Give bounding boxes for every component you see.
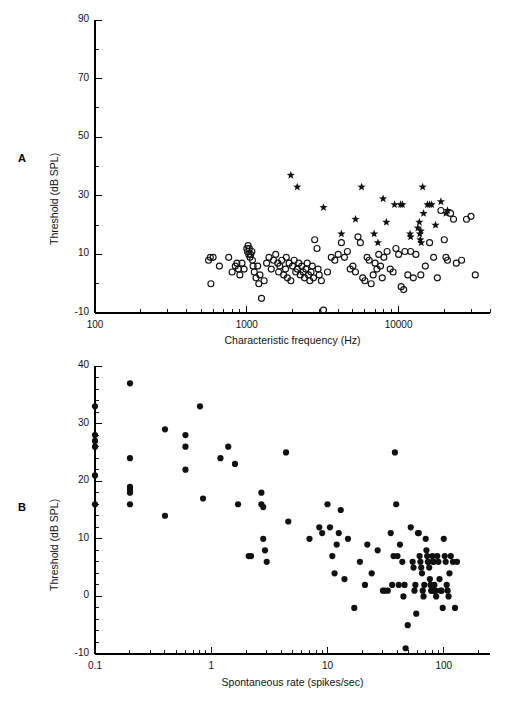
data-point-filled-circle	[420, 588, 426, 594]
y-tick-label: 10	[47, 532, 89, 543]
data-point-filled-circle	[306, 536, 312, 542]
y-tick-label: 10	[47, 247, 89, 258]
data-point-filled-circle	[392, 449, 398, 455]
data-point-filled-circle	[410, 565, 416, 571]
data-point-open-circle	[259, 295, 265, 301]
data-point-filled-circle	[411, 588, 417, 594]
data-point-open-circle	[251, 269, 257, 275]
panel-a: A Threshold (dB SPL) Characteristic freq…	[0, 0, 507, 351]
data-point-star	[419, 183, 427, 191]
data-point-star	[390, 200, 398, 208]
y-tick-label: 20	[47, 474, 89, 485]
data-point-filled-circle	[217, 455, 223, 461]
data-point-filled-circle	[351, 605, 357, 611]
data-point-filled-circle	[200, 495, 206, 501]
data-point-open-circle	[357, 240, 363, 246]
data-point-open-circle	[314, 246, 320, 252]
data-point-open-circle	[324, 269, 330, 275]
data-point-filled-circle	[436, 576, 442, 582]
data-point-filled-circle	[421, 582, 427, 588]
data-point-filled-circle	[327, 524, 333, 530]
data-point-filled-circle	[424, 553, 430, 559]
data-point-filled-circle	[182, 467, 188, 473]
data-point-filled-circle	[92, 501, 98, 507]
x-tick-label: 100	[414, 660, 474, 671]
data-point-filled-circle	[162, 426, 168, 432]
data-point-open-circle	[434, 275, 440, 281]
data-point-star	[293, 183, 301, 191]
data-point-filled-circle	[92, 472, 98, 478]
data-point-open-circle	[344, 248, 350, 254]
data-point-star	[379, 194, 387, 202]
data-point-open-circle	[418, 272, 424, 278]
data-point-open-circle	[427, 240, 433, 246]
data-point-filled-circle	[423, 536, 429, 542]
data-point-filled-circle	[316, 524, 322, 530]
data-point-star	[382, 218, 390, 226]
data-point-filled-circle	[444, 582, 450, 588]
y-tick-label: 30	[47, 417, 89, 428]
data-point-open-circle	[216, 263, 222, 269]
data-point-filled-circle	[397, 541, 403, 547]
data-point-open-circle	[226, 254, 232, 260]
data-point-filled-circle	[162, 513, 168, 519]
data-point-star	[374, 238, 382, 246]
data-point-filled-circle	[403, 645, 409, 651]
data-point-filled-circle	[454, 559, 460, 565]
data-point-filled-circle	[394, 553, 400, 559]
data-point-filled-circle	[127, 455, 133, 461]
y-tick-label: 30	[47, 189, 89, 200]
data-point-filled-circle	[357, 559, 363, 565]
data-point-open-circle	[338, 240, 344, 246]
data-point-open-circle	[315, 266, 321, 272]
data-point-open-circle	[402, 248, 408, 254]
data-point-filled-circle	[389, 582, 395, 588]
data-point-filled-circle	[182, 444, 188, 450]
data-point-filled-circle	[445, 593, 451, 599]
data-point-filled-circle	[426, 565, 432, 571]
data-point-filled-circle	[197, 403, 203, 409]
data-point-open-circle	[264, 260, 270, 266]
data-point-open-circle	[229, 269, 235, 275]
data-point-open-circle	[268, 266, 274, 272]
data-point-filled-circle	[127, 380, 133, 386]
data-point-open-circle	[320, 307, 326, 313]
data-point-star	[415, 218, 423, 226]
data-point-filled-circle	[235, 501, 241, 507]
data-point-filled-circle	[416, 530, 422, 536]
data-point-open-circle	[370, 272, 376, 278]
data-point-open-circle	[441, 237, 447, 243]
data-point-filled-circle	[441, 536, 447, 542]
data-point-filled-circle	[324, 501, 330, 507]
data-point-star	[370, 230, 378, 238]
data-point-open-circle	[316, 272, 322, 278]
data-point-open-circle	[241, 266, 247, 272]
data-point-filled-circle	[405, 622, 411, 628]
data-point-filled-circle	[412, 582, 418, 588]
data-point-filled-circle	[225, 444, 231, 450]
data-point-filled-circle	[248, 553, 254, 559]
data-point-open-circle	[312, 237, 318, 243]
data-point-filled-circle	[445, 588, 451, 594]
data-point-filled-circle	[362, 582, 368, 588]
data-point-star	[337, 230, 345, 238]
data-point-open-circle	[237, 272, 243, 278]
data-point-filled-circle	[440, 605, 446, 611]
data-point-filled-circle	[443, 559, 449, 565]
data-point-open-circle	[384, 248, 390, 254]
data-point-filled-circle	[423, 547, 429, 553]
x-tick-label: 0.1	[65, 660, 125, 671]
data-point-filled-circle	[434, 553, 440, 559]
data-point-star	[419, 209, 427, 217]
figure-root: A Threshold (dB SPL) Characteristic freq…	[0, 0, 507, 702]
y-tick-label: 70	[47, 72, 89, 83]
x-tick-label: 1	[181, 660, 241, 671]
data-point-filled-circle	[388, 530, 394, 536]
data-point-open-circle	[208, 281, 214, 287]
data-point-filled-circle	[417, 559, 423, 565]
data-point-filled-circle	[442, 553, 448, 559]
data-point-filled-circle	[92, 444, 98, 450]
series-star	[287, 171, 452, 246]
data-point-filled-circle	[419, 570, 425, 576]
data-point-open-circle	[431, 254, 437, 260]
